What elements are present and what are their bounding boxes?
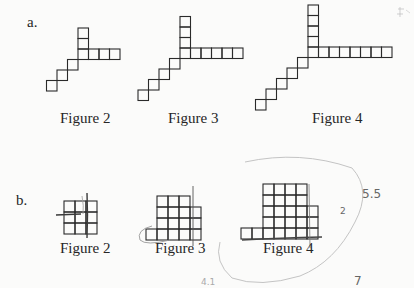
diagonal-square <box>57 70 68 81</box>
junction-square <box>78 49 89 60</box>
handwritten-note-4-1: 4.1 <box>201 278 215 287</box>
grid-square <box>263 195 274 206</box>
grid-square <box>285 195 296 206</box>
grid-square <box>307 206 318 217</box>
grid-square <box>190 229 201 240</box>
grid-square <box>190 207 201 218</box>
grid-square <box>75 201 86 212</box>
vertical-square <box>180 38 191 49</box>
grid-square <box>179 218 190 229</box>
grid-square <box>263 217 274 228</box>
diagonal-square <box>298 58 309 69</box>
diagonal-square <box>47 81 58 92</box>
grid-square <box>296 184 307 195</box>
grid-square <box>274 228 285 239</box>
figure-label-b-4: Figure 4 <box>263 241 313 256</box>
grid-square <box>263 228 274 239</box>
diagonal-square <box>138 90 149 101</box>
horizontal-square <box>89 49 100 60</box>
grid-square <box>274 206 285 217</box>
handwritten-note-2: 2 <box>340 207 346 216</box>
grid-square <box>168 196 179 207</box>
diagonal-square <box>149 80 160 91</box>
handwritten-note-5-5: 5.5 <box>362 188 381 200</box>
figure-label-a-4: Figure 4 <box>312 111 362 126</box>
diagonal-square <box>287 68 298 79</box>
vertical-square <box>78 39 89 50</box>
grid-square <box>157 207 168 218</box>
vertical-square <box>180 27 191 38</box>
horizontal-square <box>212 48 223 59</box>
vertical-square <box>308 37 319 48</box>
horizontal-square <box>222 48 233 59</box>
grid-square <box>285 206 296 217</box>
horizontal-square <box>99 49 110 60</box>
horizontal-square <box>319 47 330 58</box>
part-b-letter: b. <box>16 193 27 208</box>
horizontal-square <box>201 48 212 59</box>
horizontal-square <box>191 48 202 59</box>
horizontal-square <box>110 49 121 60</box>
grid-square <box>274 195 285 206</box>
grid-square <box>168 218 179 229</box>
grid-square <box>75 223 86 234</box>
diagonal-square <box>68 60 79 71</box>
grid-square <box>285 217 296 228</box>
grid-square <box>157 218 168 229</box>
grid-square <box>146 229 157 240</box>
grid-square <box>179 207 190 218</box>
worksheet-page: a. b. Figure 2 Figure 3 Figure 4 Figure … <box>0 0 414 288</box>
horizontal-square <box>350 47 361 58</box>
grid-square <box>168 229 179 240</box>
vertical-square <box>78 28 89 39</box>
grid-square <box>157 229 168 240</box>
handwritten-note-7: 7 <box>354 275 362 287</box>
grid-square <box>296 217 307 228</box>
part-b-figures <box>64 184 318 240</box>
grid-square <box>296 195 307 206</box>
grid-square <box>157 196 168 207</box>
figure-label-b-2: Figure 2 <box>60 241 110 256</box>
grid-square <box>179 196 190 207</box>
figure-label-b-3: Figure 3 <box>155 241 205 256</box>
grid-square <box>274 184 285 195</box>
grid-square <box>64 223 75 234</box>
junction-square <box>308 47 319 58</box>
diagonal-square <box>256 100 267 111</box>
horizontal-square <box>371 47 382 58</box>
vertical-square <box>180 17 191 28</box>
horizontal-square <box>340 47 351 58</box>
grid-square <box>252 228 263 239</box>
grid-square <box>168 207 179 218</box>
vertical-square <box>308 26 319 37</box>
vertical-square <box>308 16 319 27</box>
vertical-square <box>308 5 319 16</box>
horizontal-square <box>361 47 372 58</box>
grid-square <box>179 229 190 240</box>
horizontal-square <box>382 47 393 58</box>
horizontal-square <box>329 47 340 58</box>
grid-square <box>296 206 307 217</box>
junction-square <box>180 48 191 59</box>
part-a-figures <box>47 5 393 110</box>
grid-square <box>263 184 274 195</box>
grid-square <box>307 217 318 228</box>
diagonal-square <box>277 79 288 90</box>
grid-square <box>285 184 296 195</box>
diagonal-square <box>170 59 181 70</box>
grid-square <box>190 218 201 229</box>
grid-square <box>64 201 75 212</box>
diagonal-square <box>266 89 277 100</box>
part-a-letter: a. <box>27 15 37 30</box>
figure-label-a-2: Figure 2 <box>60 111 110 126</box>
diagonal-square <box>159 69 170 80</box>
grid-square <box>274 217 285 228</box>
grid-square <box>241 228 252 239</box>
figure-label-a-3: Figure 3 <box>168 111 218 126</box>
horizontal-square <box>233 48 244 59</box>
grid-square <box>263 206 274 217</box>
